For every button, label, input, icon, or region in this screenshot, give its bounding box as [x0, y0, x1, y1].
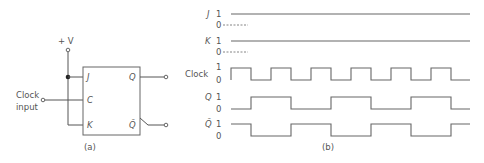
diagram-canvas: + V Clock input J C K Q Q̄ (a) J 1 0 K 1…: [0, 0, 484, 163]
signal-j-high: 1: [216, 9, 221, 19]
signal-j-low: 0: [216, 20, 221, 30]
signal-q-high: 1: [216, 92, 221, 102]
timing-diagram: J 1 0 K 1 0 Clock 1 0 Q 1 0 Q̄ 1 0 (b): [185, 9, 470, 152]
caption-b: (b): [322, 142, 334, 152]
signal-qbar-wave: [231, 124, 470, 136]
clock-terminal-icon: [41, 98, 45, 102]
signal-clock-high: 1: [216, 62, 221, 72]
pin-qbar: Q̄: [129, 119, 136, 130]
signal-q-wave: [231, 97, 470, 109]
signal-clock-label: Clock: [185, 69, 208, 79]
signal-qbar-high: 1: [216, 119, 221, 129]
signal-k-label: K: [205, 36, 212, 46]
supply-terminal-icon: [66, 48, 70, 52]
pin-q: Q: [129, 72, 136, 82]
supply-label: + V: [58, 36, 74, 46]
pin-c: C: [87, 95, 93, 105]
signal-qbar-label: Q̄: [205, 118, 212, 129]
signal-k-high: 1: [216, 36, 221, 46]
signal-q-label: Q: [205, 92, 212, 102]
q-output-terminal-icon: [164, 75, 168, 79]
signal-clock-wave: [231, 68, 470, 80]
signal-qbar-low: 0: [216, 131, 221, 141]
qbar-output-terminal-icon: [164, 123, 168, 127]
signal-clock-low: 0: [216, 75, 221, 85]
signal-j-label: J: [205, 9, 210, 19]
signal-k-low: 0: [216, 47, 221, 57]
clock-input-label-1: Clock: [16, 90, 39, 100]
flip-flop-circuit: + V Clock input J C K Q Q̄ (a): [16, 36, 168, 152]
caption-a: (a): [84, 142, 96, 152]
signal-q-low: 0: [216, 104, 221, 114]
clock-input-label-2: input: [16, 102, 39, 112]
